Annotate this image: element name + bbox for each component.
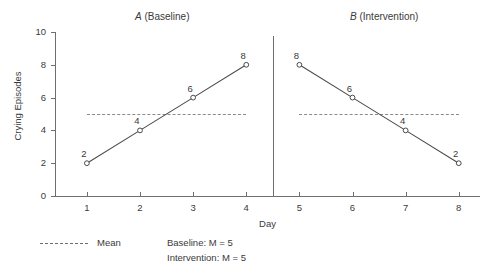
phase-title-intervention: B (Intervention) xyxy=(350,11,418,22)
x-tick-label-3: 3 xyxy=(182,202,204,214)
series-line-intervention xyxy=(299,65,458,163)
data-point-label-day-6: 6 xyxy=(340,83,360,94)
data-point-day-2 xyxy=(138,128,143,133)
data-point-label-day-8: 2 xyxy=(446,148,466,159)
x-tick-label-5: 5 xyxy=(288,202,310,214)
legend-mean-dash-icon xyxy=(40,243,88,244)
legend-stat-intervention: Intervention: M = 5 xyxy=(167,251,246,265)
chart-figure: A (Baseline) B (Intervention) Crying Epi… xyxy=(0,0,495,273)
x-axis-line xyxy=(55,196,480,197)
series-svg xyxy=(55,32,480,196)
x-tick-label-4: 4 xyxy=(235,202,257,214)
data-point-day-7 xyxy=(403,128,408,133)
legend: Mean Baseline: M = 5 Intervention: M = 5 xyxy=(0,236,495,270)
x-tick-label-1: 1 xyxy=(76,202,98,214)
data-point-label-day-3: 6 xyxy=(180,83,200,94)
y-axis-title: Crying Episodes xyxy=(12,71,23,140)
phase-letter-b: B xyxy=(350,11,357,22)
y-tick-0: 0 xyxy=(51,196,55,197)
phase-name-a: (Baseline) xyxy=(144,11,189,22)
phase-letter-a: A xyxy=(135,11,142,22)
x-axis-title: Day xyxy=(55,218,480,229)
x-tick-label-8: 8 xyxy=(448,202,470,214)
y-axis-title-wrapper: Crying Episodes xyxy=(18,32,19,196)
x-tick-label-2: 2 xyxy=(129,202,151,214)
plot-area: 0246810 12345678 24688642 Day xyxy=(55,32,480,196)
data-point-day-3 xyxy=(191,95,196,100)
y-tick-label-6: 6 xyxy=(41,91,46,104)
series-paths xyxy=(84,62,461,165)
phase-name-b: (Intervention) xyxy=(359,11,418,22)
x-tick-label-7: 7 xyxy=(395,202,417,214)
legend-stat-baseline: Baseline: M = 5 xyxy=(167,236,233,250)
data-point-label-day-7: 4 xyxy=(393,115,413,126)
series-line-baseline xyxy=(87,65,246,163)
legend-mean-label: Mean xyxy=(97,236,121,250)
x-tick-label-6: 6 xyxy=(342,202,364,214)
data-point-label-day-4: 8 xyxy=(233,50,253,61)
phase-title-baseline: A (Baseline) xyxy=(135,11,189,22)
y-tick-label-4: 4 xyxy=(41,123,46,136)
y-tick-label-2: 2 xyxy=(41,156,46,169)
data-point-label-day-5: 8 xyxy=(286,50,306,61)
data-point-day-1 xyxy=(84,161,89,166)
data-point-day-6 xyxy=(350,95,355,100)
y-tick-label-10: 10 xyxy=(35,25,46,38)
data-point-label-day-1: 2 xyxy=(74,148,94,159)
y-tick-label-0: 0 xyxy=(41,189,46,202)
data-point-day-5 xyxy=(297,62,302,67)
data-point-day-8 xyxy=(456,161,461,166)
data-point-day-4 xyxy=(244,62,249,67)
data-point-label-day-2: 4 xyxy=(127,115,147,126)
y-tick-label-8: 8 xyxy=(41,58,46,71)
